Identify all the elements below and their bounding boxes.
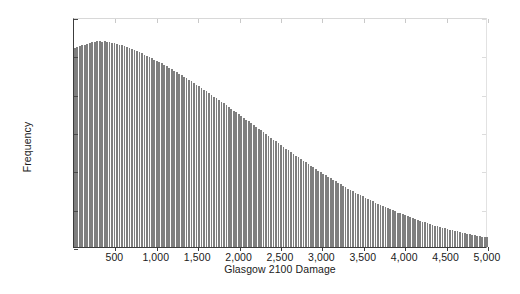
histogram-bar	[375, 203, 377, 247]
x-tick-mark-top	[364, 19, 365, 23]
histogram-bar	[153, 60, 155, 247]
histogram-bar	[186, 78, 188, 247]
histogram-bar	[141, 53, 143, 247]
histogram-bar	[295, 156, 297, 247]
histogram-bar	[486, 237, 488, 247]
histogram-bar	[81, 45, 83, 247]
y-tick-mark	[74, 134, 78, 135]
histogram-bar	[476, 236, 478, 247]
histogram-bar	[233, 111, 235, 247]
histogram-bar	[213, 97, 215, 247]
histogram-bar	[240, 116, 242, 247]
histogram-bar	[161, 63, 163, 247]
histogram-bar	[134, 50, 136, 247]
histogram-bar	[226, 105, 228, 247]
histogram-bar	[201, 88, 203, 247]
x-axis-title: Glasgow 2100 Damage	[73, 263, 487, 275]
histogram-bar	[305, 162, 307, 247]
histogram-bar	[104, 41, 106, 247]
histogram-bar	[131, 49, 133, 247]
y-tick-mark-right	[482, 211, 486, 212]
histogram-bar	[298, 157, 300, 247]
histogram-bar	[397, 213, 399, 248]
histogram-bar	[238, 114, 240, 247]
histogram-bar	[315, 169, 317, 247]
x-tick-mark-top	[198, 19, 199, 23]
histogram-bar	[432, 225, 434, 247]
histogram-bar	[412, 218, 414, 247]
y-tick-mark	[74, 96, 78, 97]
histogram-bar	[263, 132, 265, 247]
histogram-bar	[437, 226, 439, 247]
histogram-bar	[121, 45, 123, 247]
histogram-bar	[211, 95, 213, 247]
histogram-bar	[126, 47, 128, 247]
histogram-bar	[235, 112, 237, 247]
histogram-bar	[176, 72, 178, 247]
histogram-bar	[464, 233, 466, 247]
histogram-bar	[136, 51, 138, 247]
histogram-bar	[196, 85, 198, 247]
histogram-bar	[171, 69, 173, 247]
x-tick-label: 4,500	[432, 251, 459, 263]
histogram-bar	[327, 177, 329, 247]
histogram-bar	[362, 196, 364, 247]
x-tick-label: 4,000	[391, 251, 418, 263]
histogram-bar	[275, 141, 277, 247]
histogram-bar	[422, 222, 424, 247]
x-tick-label: 3,500	[349, 251, 376, 263]
histogram-bar	[106, 42, 108, 247]
histogram-bar	[290, 152, 292, 247]
histogram-bar	[228, 107, 230, 247]
histogram-bar	[255, 127, 257, 247]
x-tick-mark-top	[488, 19, 489, 23]
histogram-bar	[474, 235, 476, 247]
histogram-bar	[86, 44, 88, 247]
histogram-bar	[399, 213, 401, 247]
histogram-bar	[365, 198, 367, 247]
histogram-bar	[124, 46, 126, 247]
histogram-bar	[419, 221, 421, 247]
histogram-bar	[340, 184, 342, 247]
histogram-bar	[434, 226, 436, 247]
histogram-bar	[109, 42, 111, 247]
histogram-bar	[283, 147, 285, 247]
histogram-bar	[317, 171, 319, 247]
histogram-bar	[248, 121, 250, 247]
histogram-bar	[385, 207, 387, 247]
histogram-bar	[337, 183, 339, 247]
histogram-bar	[355, 193, 357, 247]
histogram-bar	[245, 120, 247, 247]
histogram-bar	[258, 129, 260, 247]
histogram-bar	[288, 150, 290, 247]
histogram-bar	[377, 204, 379, 247]
histogram-bar	[417, 220, 419, 247]
x-tick-label: 1,500	[184, 251, 211, 263]
histogram-bar	[111, 43, 113, 247]
histogram-bar	[273, 140, 275, 247]
histogram-bar	[459, 232, 461, 247]
histogram-bar	[466, 234, 468, 247]
histogram-bar	[191, 81, 193, 247]
histogram-bar	[223, 103, 225, 247]
histogram-bar	[394, 211, 396, 247]
y-tick-mark	[74, 249, 78, 250]
histogram-bar	[198, 86, 200, 247]
histogram-bar	[293, 154, 295, 247]
x-tick-label: 3,000	[308, 251, 335, 263]
histogram-bar	[429, 224, 431, 247]
histogram-bar	[218, 100, 220, 247]
histogram-bar	[332, 180, 334, 247]
histogram-bar	[114, 43, 116, 247]
histogram-bar	[151, 58, 153, 247]
histogram-bar	[203, 90, 205, 247]
histogram-bar	[387, 208, 389, 247]
histogram-bar	[156, 61, 158, 247]
histogram-bar	[404, 215, 406, 247]
histogram-bar	[469, 234, 471, 247]
histogram-bar	[414, 219, 416, 247]
histogram-bar	[253, 125, 255, 247]
histogram-bar	[149, 57, 151, 247]
histogram-bar	[230, 109, 232, 247]
histogram-bar	[454, 231, 456, 247]
